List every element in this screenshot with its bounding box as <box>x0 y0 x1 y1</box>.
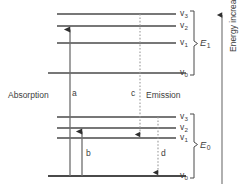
level-label-ground-v0: v0 <box>180 170 188 180</box>
energy-axis-label: Energy increasing <box>228 0 238 52</box>
transition-label-d: d <box>161 148 166 158</box>
transition-label-c: c <box>131 88 135 98</box>
transition-label-a: a <box>72 88 77 98</box>
process-label-absorption: Absorption <box>8 90 49 100</box>
level-label-excited-v2: v2 <box>180 20 188 30</box>
transition-label-b: b <box>86 148 91 158</box>
level-label-ground-v3: v3 <box>180 111 188 121</box>
level-label-excited-v1: v1 <box>180 37 188 47</box>
bracket-e0 <box>190 114 198 178</box>
bracket-e1 <box>190 11 198 75</box>
level-label-ground-v2: v2 <box>180 122 188 132</box>
energy-level-diagram: v3 v2 v1 v0 v3 v2 v1 v0 E1 E0 Absorption… <box>0 0 250 191</box>
level-label-ground-v1: v1 <box>180 132 188 142</box>
excited-manifold-levels <box>48 14 186 73</box>
level-label-excited-v3: v3 <box>180 8 188 18</box>
manifold-label-e0: E0 <box>200 139 210 150</box>
ground-manifold-levels <box>48 117 186 176</box>
manifold-label-e1: E1 <box>200 37 210 48</box>
process-label-emission: Emission <box>146 90 180 100</box>
level-label-excited-v0: v0 <box>180 67 188 77</box>
